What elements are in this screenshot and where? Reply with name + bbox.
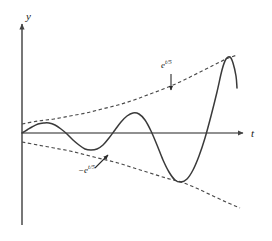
exponential-oscillation-figure: y t et/5 −et/5 bbox=[0, 0, 272, 241]
plot-canvas bbox=[0, 0, 272, 241]
lower-envelope-label-base: −e bbox=[78, 165, 88, 175]
upper-envelope-label-exponent: t/5 bbox=[165, 58, 172, 65]
lower-envelope-label: −et/5 bbox=[78, 166, 95, 175]
lower-envelope-curve bbox=[22, 142, 240, 208]
lower-envelope-label-exponent: t/5 bbox=[88, 163, 95, 170]
y-axis-label: y bbox=[26, 11, 31, 22]
t-axis-label: t bbox=[251, 128, 254, 139]
annotation-arrows-group bbox=[95, 74, 171, 168]
lower-envelope-pointer-arrow bbox=[95, 155, 108, 168]
upper-envelope-label: et/5 bbox=[161, 61, 172, 70]
